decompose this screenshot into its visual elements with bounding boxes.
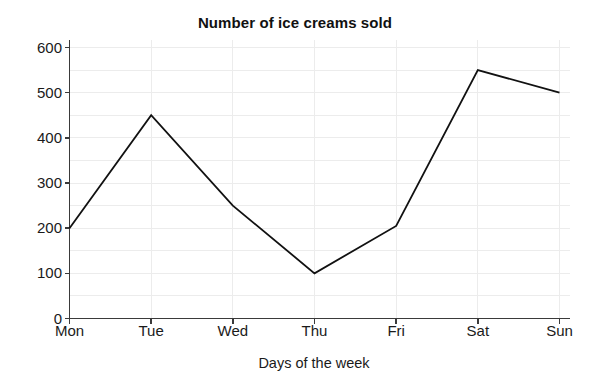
y-tick-label: 100 [4, 265, 62, 280]
major-gridlines [70, 48, 570, 319]
x-tick-label-tue: Tue [106, 322, 196, 339]
x-axis-title: Days of the week [69, 355, 559, 371]
x-tick-label-wed: Wed [188, 322, 278, 339]
x-tick-label-sat: Sat [433, 322, 523, 339]
tick-marks [65, 48, 560, 324]
y-tick-label: 400 [4, 130, 62, 145]
y-tick-label: 500 [4, 85, 62, 100]
y-tick-label: 600 [4, 40, 62, 55]
x-tick-label-thu: Thu [270, 322, 360, 339]
ice-cream-line-chart: Number of ice creams sold 01002003004005… [0, 0, 590, 388]
y-tick-label: 300 [4, 175, 62, 190]
x-tick-label-fri: Fri [351, 322, 441, 339]
vertical-gridlines [70, 40, 560, 319]
x-tick-label-sun: Sun [515, 322, 590, 339]
x-tick-label-mon: Mon [25, 322, 115, 339]
y-tick-label: 200 [4, 220, 62, 235]
axis-lines [70, 40, 570, 319]
